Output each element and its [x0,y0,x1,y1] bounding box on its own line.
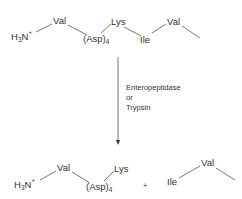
residue-lys: Lys [114,163,129,174]
enzyme-or: or [126,93,133,102]
plus-sign: + [143,181,148,190]
bond [101,24,111,33]
substrate-chain: H3N+ Val (Asp)4 Lys Ile Val [11,15,200,45]
residue-val: Val [201,157,214,168]
residue-ile: Ile [167,176,177,187]
product-fragment-1: H3N+ Val (Asp)4 Lys [14,162,129,193]
bond [182,26,200,38]
product-fragment-2: Ile Val [167,157,235,187]
n-terminus: H3N+ [11,29,32,43]
reaction-arrow [116,57,120,145]
bond [40,171,56,180]
bond [104,171,114,181]
arrow-head-icon [116,140,120,145]
bond [36,24,52,32]
enzyme-enteropeptidase: Enteropeptidase [126,83,181,92]
bond [179,166,200,178]
residue-ile: Ile [140,34,150,45]
bond [124,27,141,36]
bond [216,168,235,180]
residue-asp4: (Asp)4 [83,33,110,45]
trypsinogen-activation-diagram: H3N+ Val (Asp)4 Lys Ile Val Enteropeptid… [0,0,242,199]
residue-val: Val [57,162,70,173]
n-terminus: H3N+ [14,177,35,191]
enzyme-trypsin: Trypsin [126,103,150,112]
enzyme-label: Enteropeptidase or Trypsin [126,83,181,112]
residue-lys: Lys [111,16,126,27]
residue-asp4: (Asp)4 [86,181,113,193]
residue-val-2: Val [167,16,180,27]
residue-val: Val [53,15,66,26]
bond [152,24,166,33]
